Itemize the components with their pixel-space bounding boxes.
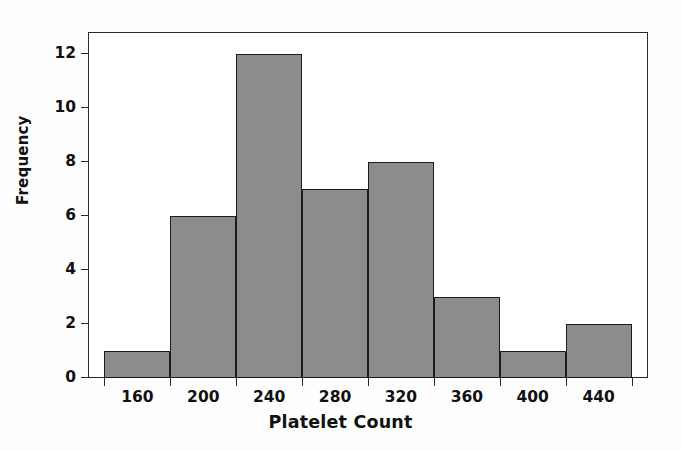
x-axis-tick-label: 240 <box>253 390 285 406</box>
x-axis-tick <box>632 378 633 386</box>
y-axis-tick-label: 2 <box>46 316 76 332</box>
y-axis-tick <box>81 323 88 324</box>
y-axis-tick-labels: 024681012 <box>42 0 76 451</box>
x-axis-tick <box>170 378 171 386</box>
bars-layer <box>88 32 648 378</box>
x-axis-tick <box>500 378 501 386</box>
y-axis-tick <box>81 215 88 216</box>
x-axis-tick-label: 200 <box>187 390 219 406</box>
histogram-bar <box>434 297 500 378</box>
y-axis-tick-label: 6 <box>46 208 76 224</box>
y-axis-tick <box>81 377 88 378</box>
y-axis-tick-label: 4 <box>46 262 76 278</box>
y-axis-title: Frequency <box>14 115 32 205</box>
histogram-bar <box>236 54 302 378</box>
x-axis-title: Platelet Count <box>0 412 681 432</box>
x-axis-tick <box>434 378 435 386</box>
histogram-bar <box>566 324 632 378</box>
y-axis-tick-label: 0 <box>46 370 76 386</box>
y-axis-tick-label: 8 <box>46 154 76 170</box>
x-axis-tick <box>368 378 369 386</box>
x-axis-tick <box>104 378 105 386</box>
y-axis-tick <box>81 53 88 54</box>
x-axis-tick-label: 360 <box>451 390 483 406</box>
x-axis-tick-label: 320 <box>385 390 417 406</box>
y-axis-tick-label: 12 <box>46 46 76 62</box>
histogram-bar <box>500 351 566 378</box>
y-axis-tick <box>81 161 88 162</box>
histogram-bar <box>170 216 236 378</box>
x-axis-tick-label: 280 <box>319 390 351 406</box>
x-axis-tick-label: 400 <box>517 390 549 406</box>
histogram-bar <box>302 189 368 378</box>
histogram-bar <box>104 351 170 378</box>
y-axis-tick-label: 10 <box>46 100 76 116</box>
y-axis-tick <box>81 107 88 108</box>
x-axis-tick <box>302 378 303 386</box>
y-axis-tick <box>81 269 88 270</box>
histogram-bar <box>368 162 434 378</box>
x-axis-tick <box>566 378 567 386</box>
x-axis-tick-label: 160 <box>121 390 153 406</box>
x-axis-tick-label: 440 <box>582 390 614 406</box>
x-axis-tick <box>236 378 237 386</box>
histogram-figure: 024681012 160200240280320360400440 Plate… <box>0 0 681 451</box>
